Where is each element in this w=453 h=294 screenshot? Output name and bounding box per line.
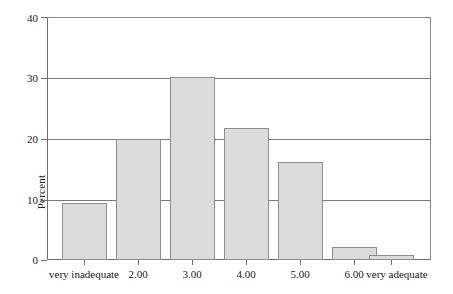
x-tick-label-6: 6.00 (344, 268, 363, 281)
bar-4 (224, 128, 269, 260)
y-tick-mark-0 (41, 260, 47, 261)
x-tick-mark-6 (354, 260, 355, 265)
y-tick-label-30: 30 (4, 73, 38, 84)
x-tick-mark-3 (192, 260, 193, 265)
y-tick-label-10: 10 (4, 195, 38, 206)
y-tick-label-40: 40 (4, 13, 38, 24)
histogram-chart: Percent 40 30 20 10 0 very inadequate 2.… (0, 0, 453, 294)
x-tick-mark-2 (138, 260, 139, 265)
bar-3 (170, 77, 215, 260)
bar-very-inadequate (62, 203, 107, 260)
x-tick-mark-4 (246, 260, 247, 265)
y-tick-label-0: 0 (4, 255, 38, 266)
bar-5 (278, 162, 323, 260)
x-tick-label-4: 4.00 (236, 268, 255, 281)
x-tick-mark-5 (300, 260, 301, 265)
gridline-30 (48, 78, 430, 79)
x-tick-label-very-adequate: very adequate (366, 268, 427, 281)
plot-area (47, 17, 431, 260)
x-tick-label-5: 5.00 (290, 268, 309, 281)
y-axis-title: Percent (35, 157, 47, 227)
x-tick-label-very-inadequate: very inadequate (49, 268, 119, 281)
x-tick-label-2: 2.00 (128, 268, 147, 281)
x-tick-mark-7 (391, 260, 392, 265)
y-tick-label-20: 20 (4, 134, 38, 145)
x-tick-label-3: 3.00 (182, 268, 201, 281)
bar-2 (116, 139, 161, 260)
x-tick-mark-1 (84, 260, 85, 265)
